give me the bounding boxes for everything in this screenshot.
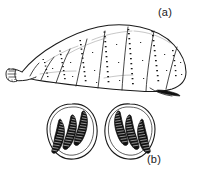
larva-mouth-dot-1 (8, 78, 9, 79)
spiracular-plate-left (47, 104, 97, 159)
spiracular-plate-right (105, 104, 155, 159)
figure-container: (a) (b) (0, 0, 200, 176)
panel-label-a: (a) (158, 7, 172, 18)
larva-mouth-dot-3 (14, 79, 15, 80)
panel-label-b: (b) (147, 154, 161, 165)
scientific-illustration (0, 0, 200, 176)
larva-mouth-dot-2 (11, 79, 12, 80)
